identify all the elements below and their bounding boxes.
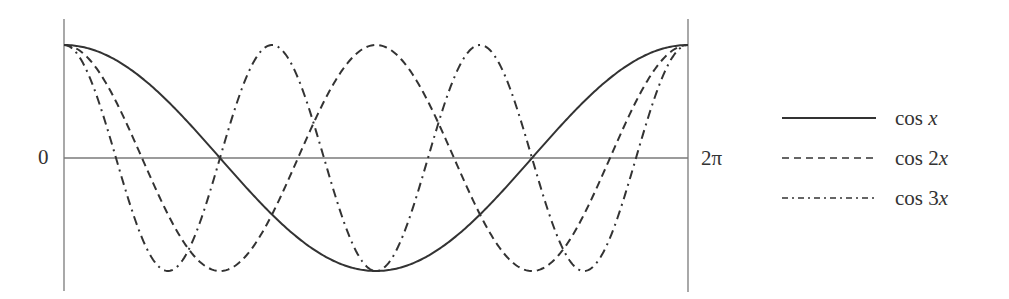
legend-coef: 2 — [928, 146, 939, 170]
legend-swatches — [782, 118, 876, 198]
legend-prefix: cos — [895, 106, 928, 130]
y-zero-label: 0 — [38, 147, 49, 168]
x-end-label: 2π — [701, 148, 722, 169]
legend-coef: 3 — [928, 186, 939, 210]
legend-var: x — [928, 106, 937, 130]
axes — [64, 19, 688, 292]
chart-canvas — [0, 0, 1009, 299]
legend-label-cos-3x: cos 3x — [895, 188, 948, 209]
legend-var: x — [939, 146, 948, 170]
legend-var: x — [939, 186, 948, 210]
legend-prefix: cos — [895, 186, 928, 210]
legend-label-cos-x: cos x — [895, 108, 938, 129]
x-end-label-text: 2π — [701, 146, 722, 170]
legend-prefix: cos — [895, 146, 928, 170]
legend-label-cos-2x: cos 2x — [895, 148, 948, 169]
